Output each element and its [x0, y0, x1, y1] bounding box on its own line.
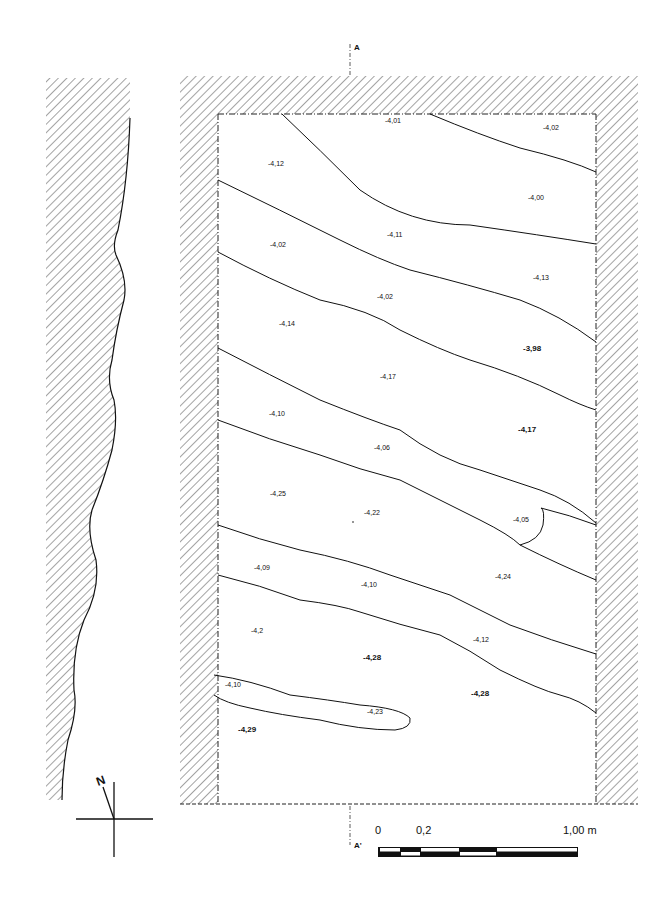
- elevation-label: -4,00: [528, 194, 544, 201]
- elevation-label: -4,11: [387, 231, 403, 238]
- elevation-label: -4,28: [471, 689, 490, 698]
- scale-label-end: 1,00 m: [563, 824, 597, 836]
- elevation-label: -3,98: [523, 344, 542, 353]
- elevation-label: -4,13: [533, 274, 549, 281]
- elevation-label: -4,05: [513, 516, 529, 523]
- north-arrow-icon: N: [76, 773, 153, 857]
- elevation-label: -4,02: [270, 241, 286, 248]
- elevation-label: -4,01: [385, 117, 401, 124]
- elevation-label: -4,17: [518, 425, 537, 434]
- elevation-label: -4,02: [377, 293, 393, 300]
- elevation-label: -4,17: [380, 373, 396, 380]
- elevation-label: -4,12: [268, 160, 284, 167]
- elevation-label: -4,25: [270, 490, 286, 497]
- elevation-label: -4,29: [238, 725, 257, 734]
- elevation-label: -4,10: [361, 581, 377, 588]
- elevation-label: -4,23: [367, 708, 383, 715]
- left-wall-section: [46, 78, 130, 800]
- scale-label-start: 0: [375, 824, 381, 836]
- elevation-label: -4,06: [374, 444, 390, 451]
- north-label: N: [94, 773, 107, 789]
- excavation-plan: A A' -4,01 -4,02 -4,12 -4,00 -4,11 -4,02…: [0, 0, 663, 912]
- elevation-label: -4,10: [225, 681, 241, 688]
- trench-wall-hatching: [180, 76, 638, 804]
- section-marker-top: A: [354, 43, 360, 52]
- elevation-label: -4,22: [364, 509, 380, 516]
- elevation-label: -4,2: [251, 627, 263, 634]
- scale-bar: 0 0,2 1,00 m: [375, 824, 597, 857]
- elevation-label: -4,14: [279, 320, 295, 327]
- elevation-label: -4,02: [543, 124, 559, 131]
- section-marker-bottom: A': [354, 841, 362, 850]
- elevation-label: -4,12: [473, 636, 489, 643]
- elevation-label: -4,09: [254, 564, 270, 571]
- elevation-label: -4,24: [495, 573, 511, 580]
- elevation-label: -4,10: [269, 410, 285, 417]
- scale-label-mid: 0,2: [416, 824, 431, 836]
- elevation-label: -4,28: [363, 653, 382, 662]
